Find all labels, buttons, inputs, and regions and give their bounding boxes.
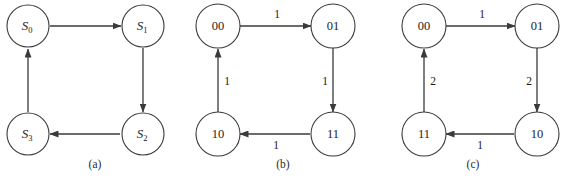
figure-panel-b: 1 1 1 1 00 01 11 10 (b) (188, 0, 378, 194)
panel-caption-b: (b) (188, 158, 378, 170)
node-bl-label: 11 (418, 127, 430, 141)
edge-label-br-bl: 1 (477, 139, 483, 151)
edge-label-tr-br: 2 (526, 75, 532, 87)
state-diagram-c: 1 2 1 2 00 01 10 11 (378, 0, 568, 160)
node-bl-label: 10 (212, 127, 225, 141)
figure-panel-c: 1 2 1 2 00 01 10 11 (c) (378, 0, 568, 194)
state-diagram-a: S0 S1 S2 S3 (0, 0, 190, 160)
edge-label-br-bl: 1 (273, 139, 279, 151)
node-br-label: 11 (327, 127, 339, 141)
figure-row: S0 S1 S2 S3 (a) (0, 0, 569, 194)
node-tl-label: 00 (212, 19, 225, 33)
state-diagram-b: 1 1 1 1 00 01 11 10 (188, 0, 378, 160)
edge-label-bl-tl: 1 (224, 75, 230, 87)
edge-label-tl-tr: 1 (274, 8, 280, 20)
node-tr-label: 01 (531, 19, 544, 33)
panel-caption-a: (a) (0, 158, 190, 170)
edge-label-bl-tl: 2 (430, 75, 436, 87)
edge-label-tl-tr: 1 (479, 8, 485, 20)
node-tl-label: 00 (418, 19, 431, 33)
node-br-label: 10 (531, 127, 544, 141)
panel-caption-c: (c) (378, 158, 568, 170)
node-tr-label: 01 (327, 19, 340, 33)
edge-label-tr-br: 1 (322, 75, 328, 87)
figure-panel-a: S0 S1 S2 S3 (a) (0, 0, 190, 194)
